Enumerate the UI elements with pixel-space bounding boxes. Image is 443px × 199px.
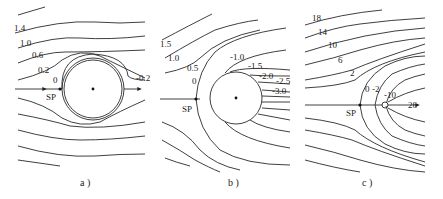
label-a-1-4: 1.4 (14, 23, 26, 33)
stagnation-point-b: SP (182, 104, 192, 114)
stagnation-point-c: SP (346, 108, 356, 118)
stagnation-point-a: SP (46, 92, 56, 102)
caption-b: b ) (228, 177, 239, 189)
caption-a: a ) (80, 177, 90, 189)
panel-a: 1.4 1.0 0.6 0.2 0 -0.2 SP a ) (14, 7, 150, 189)
label-c-6: 6 (338, 55, 343, 65)
label-b-neg-1-0: -1.0 (230, 52, 245, 62)
panel-c: 18 14 10 6 2 0 -2 -10 26 SP c ) (305, 10, 425, 189)
label-b-neg-2-0: -2.0 (259, 71, 274, 81)
label-b-neg-3-0: -3.0 (272, 86, 287, 96)
label-a-1-0: 1.0 (20, 38, 32, 48)
label-c-neg-2: -2 (372, 84, 380, 94)
label-c-0: 0 (365, 84, 370, 94)
label-b-1-5: 1.5 (160, 39, 172, 49)
label-a-0-2: 0.2 (38, 65, 49, 75)
label-c-26: 26 (408, 100, 418, 110)
panel-b: 1.5 1.0 0.5 0 -1.0 -1.5 -2.0 -2.5 -3.0 S… (160, 14, 291, 189)
label-b-1-0: 1.0 (168, 53, 180, 63)
label-b-neg-2-5: -2.5 (276, 76, 291, 86)
label-c-14: 14 (318, 27, 328, 37)
label-c-2: 2 (350, 68, 355, 78)
label-c-18: 18 (312, 13, 322, 23)
label-a-0: 0 (53, 75, 58, 85)
label-b-neg-1-5: -1.5 (248, 61, 263, 71)
label-b-0-5: 0.5 (187, 63, 199, 73)
streamline-figure: 1.4 1.0 0.6 0.2 0 -0.2 SP a ) 1.5 1.0 (0, 0, 443, 199)
label-a-neg-0-2: -0.2 (136, 73, 150, 83)
label-b-0: 0 (192, 76, 197, 86)
label-c-10: 10 (328, 40, 338, 50)
label-a-0-6: 0.6 (32, 50, 44, 60)
label-c-neg-10: -10 (384, 90, 396, 100)
caption-c: c ) (362, 177, 372, 189)
